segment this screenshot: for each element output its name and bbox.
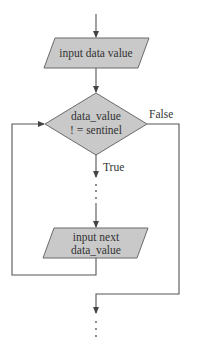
continuation-dot — [95, 197, 97, 199]
arrowhead-to-input-next — [93, 221, 99, 228]
false-arrowhead — [93, 307, 99, 314]
arrowhead-input-to-decision — [93, 86, 99, 93]
input-next-label-line2: data_value — [71, 244, 121, 256]
loop-back-arrowhead — [38, 121, 45, 127]
true-label: True — [103, 161, 124, 173]
true-arrowhead — [93, 171, 99, 178]
input-data-value-node: input data value — [44, 38, 149, 68]
decision-node: data_value ! = sentinel — [45, 93, 147, 155]
decision-label-line2: ! = sentinel — [70, 124, 122, 136]
false-label: False — [149, 108, 173, 120]
input-next-label-line1: input next — [73, 231, 120, 244]
continuation-dot — [95, 328, 97, 330]
decision-label-line1: data_value — [71, 110, 121, 122]
entry-arrowhead — [93, 31, 99, 38]
false-path — [96, 124, 179, 313]
continuation-dot — [95, 321, 97, 323]
continuation-dot — [95, 335, 97, 337]
flowchart: input data value data_value ! = sentinel… — [0, 0, 199, 346]
continuation-dot — [95, 190, 97, 192]
input-next-data-value-node: input next data_value — [43, 228, 148, 258]
continuation-dot — [95, 184, 97, 186]
input-data-value-label: input data value — [59, 47, 132, 60]
